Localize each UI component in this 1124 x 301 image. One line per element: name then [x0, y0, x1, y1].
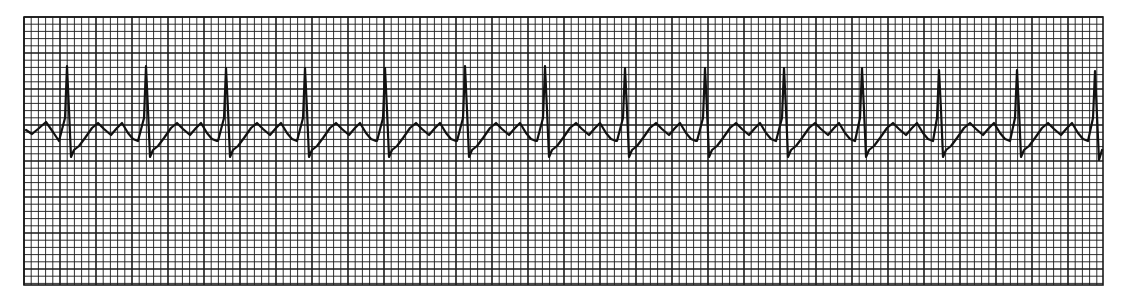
- ecg-strip-chart: [0, 0, 1124, 301]
